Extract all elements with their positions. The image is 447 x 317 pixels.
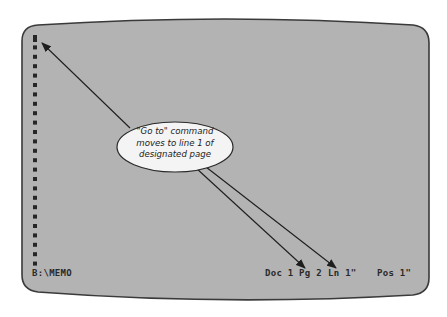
line-marker bbox=[33, 64, 37, 68]
line-marker bbox=[33, 233, 37, 237]
line-marker bbox=[33, 252, 37, 256]
status-position: Pos 1" bbox=[377, 268, 411, 278]
line-marker bbox=[33, 130, 37, 134]
line-marker bbox=[33, 224, 37, 228]
line-marker bbox=[33, 215, 37, 219]
line-marker bbox=[33, 55, 37, 59]
status-doc: Doc 1 bbox=[265, 268, 294, 278]
line-marker bbox=[33, 74, 37, 78]
line-marker bbox=[33, 139, 37, 143]
status-page: Pg 2 bbox=[299, 268, 322, 278]
callout-line-3: designated page bbox=[117, 149, 233, 161]
line-marker bbox=[33, 121, 37, 125]
line-marker bbox=[33, 196, 37, 200]
line-marker bbox=[33, 102, 37, 106]
cursor-block bbox=[33, 35, 37, 42]
illustration-stage: "Go to" command moves to line 1 of desig… bbox=[0, 0, 447, 317]
line-marker bbox=[33, 158, 37, 162]
line-marker bbox=[33, 168, 37, 172]
callout-text: "Go to" command moves to line 1 of desig… bbox=[117, 126, 233, 161]
line-marker bbox=[33, 262, 37, 266]
line-marker bbox=[33, 83, 37, 87]
line-marker bbox=[33, 149, 37, 153]
line-marker bbox=[33, 186, 37, 190]
line-marker bbox=[33, 243, 37, 247]
line-marker bbox=[33, 177, 37, 181]
status-line: Ln 1" bbox=[328, 268, 357, 278]
callout-line-1: "Go to" command bbox=[117, 126, 233, 138]
status-filename: B:\MEMO bbox=[32, 268, 72, 278]
line-marker bbox=[33, 45, 37, 49]
line-marker bbox=[33, 92, 37, 96]
line-marker bbox=[33, 111, 37, 115]
line-marker bbox=[33, 205, 37, 209]
callout-line-2: moves to line 1 of bbox=[117, 138, 233, 150]
